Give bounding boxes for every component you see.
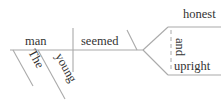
fork-lower-branch bbox=[143, 50, 168, 75]
fork-upper-branch bbox=[143, 27, 168, 50]
modifier-young: young bbox=[52, 51, 80, 86]
conjunction-word: and bbox=[173, 38, 187, 57]
sentence-diagram: man seemed honest upright and The young bbox=[0, 0, 221, 103]
verb-word: seemed bbox=[81, 34, 119, 48]
subject-word: man bbox=[25, 34, 47, 48]
adjective-honest: honest bbox=[183, 7, 216, 21]
predicate-slant-line bbox=[127, 30, 137, 50]
adjective-upright: upright bbox=[174, 59, 211, 73]
